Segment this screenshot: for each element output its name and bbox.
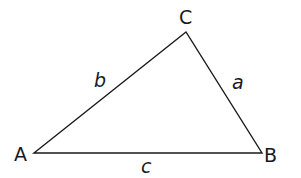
triangle-abc [34,32,262,153]
side-label-c: c [141,155,152,177]
vertex-label-a: A [14,143,27,165]
vertex-label-c: C [179,6,192,28]
triangle-diagram: A B C a b c [0,0,301,178]
side-label-b: b [94,69,106,91]
side-label-a: a [232,71,244,93]
vertex-label-b: B [264,144,277,166]
